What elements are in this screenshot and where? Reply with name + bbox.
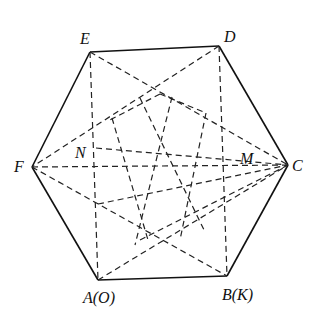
vertex-label-C: C [292, 158, 303, 174]
vertex-label-D: D [224, 29, 236, 45]
inner-line-6 [160, 94, 206, 113]
vertex-label-E: E [80, 31, 90, 47]
inner-line-5 [110, 94, 160, 120]
vertex-label-F: F [14, 159, 24, 175]
edge-DC [219, 46, 288, 165]
inner-line-2 [135, 97, 172, 245]
line-lower-horizontal [98, 165, 288, 204]
edge-CB [227, 165, 288, 276]
point-label-N: N [75, 145, 86, 161]
line-AC [98, 165, 288, 280]
line-DB [219, 46, 227, 276]
vertex-label-B: B(K) [222, 287, 253, 303]
vertex-label-A: A(O) [83, 290, 115, 306]
edge-ED [90, 46, 219, 52]
line-NC [96, 148, 288, 165]
line-EC [90, 52, 288, 165]
inner-line-4 [180, 113, 206, 240]
hexagon-diagram [0, 0, 328, 334]
point-label-M: M [240, 151, 253, 167]
line-inner-to-C [140, 165, 288, 240]
edge-AF [32, 167, 98, 280]
edge-BA [98, 276, 227, 280]
